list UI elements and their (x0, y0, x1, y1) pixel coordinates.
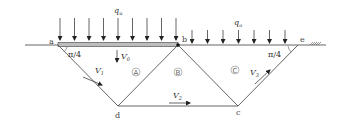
angle-arc-a (64, 47, 67, 51)
footing-load-arrows (60, 18, 176, 40)
velocity-v1-arrow (83, 77, 102, 85)
block-a-label: A (134, 69, 139, 77)
failure-mechanism-diagram: qu qo a b e d c π/4 π/4 A B C V0 (0, 0, 351, 125)
point-e-label: e (300, 35, 305, 44)
angle-arc-e (288, 46, 291, 52)
velocity-v3-label: V3 (250, 68, 259, 78)
surcharge-load-label: qo (234, 18, 242, 28)
footing (58, 43, 178, 47)
angle-label-e: π/4 (268, 50, 281, 59)
point-b-marker (176, 43, 180, 47)
velocity-v2-label: V2 (173, 91, 182, 101)
point-b-label: b (182, 35, 187, 44)
point-c-label: c (236, 108, 241, 117)
surcharge-load-arrows (192, 30, 285, 43)
block-c-label: C (233, 67, 238, 75)
angle-label-a: π/4 (68, 50, 81, 59)
block-b-label: B (176, 69, 181, 77)
velocity-v1-label: V1 (95, 66, 104, 76)
velocity-v0-label: V0 (121, 52, 131, 62)
footing-load-label: qu (114, 6, 122, 16)
point-a-label: a (49, 37, 54, 46)
point-d-label: d (115, 111, 120, 120)
